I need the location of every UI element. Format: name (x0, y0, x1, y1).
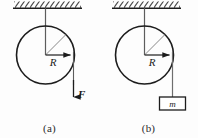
force-label: F (77, 88, 86, 100)
physics-figure: R F (a) (0, 0, 198, 138)
radius-label-a: R (49, 56, 57, 68)
panel-a: R F (a) (0, 0, 99, 138)
radius-diagonal-line (46, 34, 67, 55)
hatched-ceiling (13, 2, 82, 9)
caption-a: (a) (0, 122, 99, 134)
caption-b: (b) (99, 122, 198, 134)
panel-b-drawing: R m (99, 0, 198, 138)
radius-diagonal-line (145, 34, 166, 55)
mass-label: m (169, 99, 176, 109)
panel-a-drawing: R F (0, 0, 99, 138)
ceiling-hatching (14, 2, 81, 9)
hatched-ceiling (112, 2, 181, 9)
radius-label-b: R (148, 56, 156, 68)
panel-b: R m (b) (99, 0, 198, 138)
ceiling-hatching (113, 2, 180, 9)
